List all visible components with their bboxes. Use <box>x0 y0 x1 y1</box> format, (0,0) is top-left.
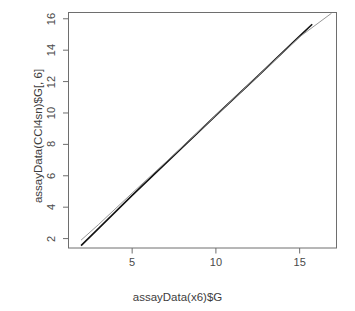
y-tick-label: 4 <box>45 204 56 210</box>
y-axis-title: assayData(CCl4sn)$G[, 6] <box>32 18 44 254</box>
x-tick-label: 15 <box>294 257 306 268</box>
x-axis-title: assayData(x6)$G <box>0 291 355 303</box>
y-tick-label: 16 <box>45 13 56 25</box>
y-tick-label: 10 <box>45 107 56 119</box>
y-tick-label: 8 <box>45 141 56 147</box>
y-tick-label: 2 <box>45 236 56 242</box>
y-tick-label: 14 <box>45 44 56 56</box>
x-tick-label: 10 <box>210 257 222 268</box>
y-tick-label: 12 <box>45 75 56 87</box>
plot-figure: 51015246810121416 assayData(x6)$G assayD… <box>0 0 355 311</box>
y-tick-label: 6 <box>45 173 56 179</box>
x-tick-label: 5 <box>129 257 135 268</box>
